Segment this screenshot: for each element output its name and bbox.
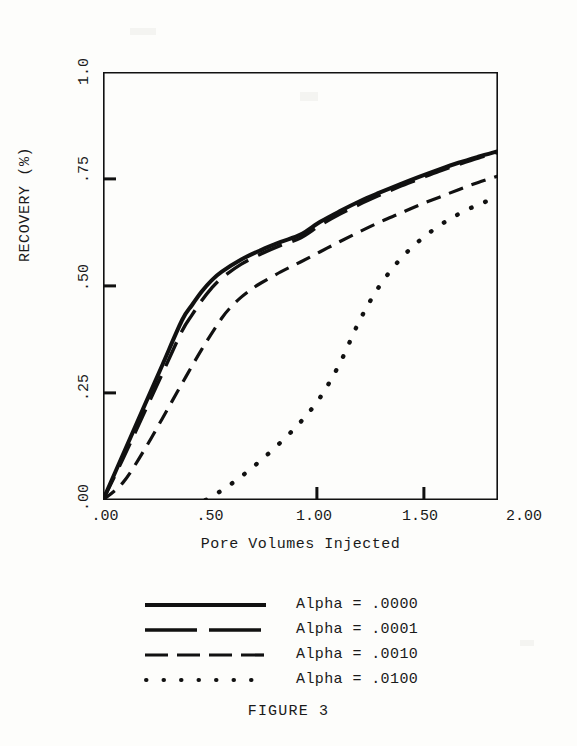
- scan-speckle: [520, 640, 534, 646]
- series-line-3: [206, 197, 498, 500]
- scan-speckle: [130, 28, 156, 35]
- legend-item: Alpha = .0001: [143, 617, 473, 642]
- x-tick-label-0: .00: [75, 508, 135, 525]
- y-tick-label-1: .25: [76, 365, 93, 411]
- x-tick-label-3: 1.50: [390, 508, 450, 525]
- data-series-layer: [103, 151, 498, 500]
- legend-label-3: Alpha = .0100: [296, 671, 418, 688]
- legend-label-2: Alpha = .0010: [296, 646, 418, 663]
- legend-swatch-medium-dash: [143, 647, 268, 663]
- legend-item: Alpha = .0100: [143, 667, 473, 692]
- y-tick-label-3: .75: [76, 147, 93, 193]
- x-axis-title: Pore Volumes Injected: [103, 536, 498, 553]
- y-axis-title: RECOVERY (%): [17, 115, 34, 295]
- legend-swatch-dotted: [143, 672, 268, 688]
- y-tick-label-4: 1.0: [76, 49, 93, 95]
- legend-label-0: Alpha = .0000: [296, 596, 418, 613]
- plot-area: [103, 72, 498, 500]
- axis-ticks: [103, 179, 424, 500]
- x-tick-label-4: 2.00: [494, 508, 554, 525]
- series-line-1: [103, 152, 498, 500]
- legend-swatch-solid: [143, 597, 268, 613]
- x-tick-label-1: .50: [180, 508, 240, 525]
- legend-swatch-long-dash: [143, 622, 268, 638]
- legend-label-1: Alpha = .0001: [296, 621, 418, 638]
- x-tick-label-2: 1.00: [284, 508, 344, 525]
- series-line-2: [103, 176, 498, 500]
- figure-caption: FIGURE 3: [0, 703, 577, 720]
- legend: Alpha = .0000 Alpha = .0001 Alpha = .001…: [143, 592, 473, 692]
- plot-canvas: [103, 72, 498, 500]
- legend-item: Alpha = .0010: [143, 642, 473, 667]
- y-tick-label-2: .50: [76, 255, 93, 301]
- legend-item: Alpha = .0000: [143, 592, 473, 617]
- axis-frame: [103, 72, 498, 500]
- series-line-0: [103, 151, 498, 500]
- figure-container: RECOVERY (%) .00 .25 .50 .75 1.0 .00 .50…: [0, 0, 577, 746]
